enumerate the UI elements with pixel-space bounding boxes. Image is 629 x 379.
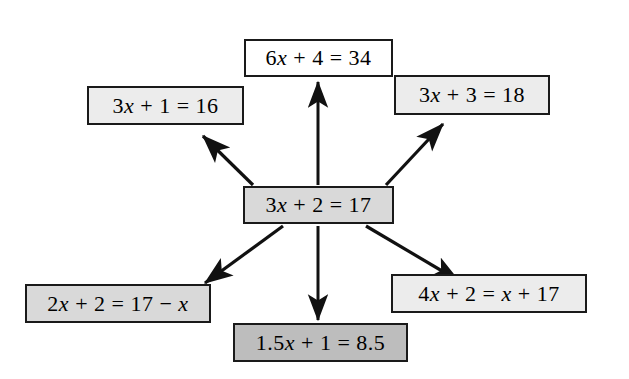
equation-node-top[interactable]: 6x + 4 = 34 <box>244 39 393 77</box>
arrow-to-upper-left <box>203 136 253 185</box>
equation-node-upper-right[interactable]: 3x + 3 = 18 <box>394 75 550 115</box>
equation-text: 2x + 2 = 17 − x <box>43 293 192 315</box>
equation-concept-map: 6x + 4 = 34 3x + 1 = 16 3x + 3 = 18 3x +… <box>0 0 629 379</box>
equation-text: 3x + 2 = 17 <box>261 194 375 216</box>
equation-text: 4x + 2 = x + 17 <box>414 283 563 305</box>
equation-text: 3x + 3 = 18 <box>415 84 529 106</box>
equation-text: 3x + 1 = 16 <box>108 95 222 117</box>
equation-node-upper-left[interactable]: 3x + 1 = 16 <box>87 86 244 125</box>
arrow-to-lower-right <box>366 226 459 281</box>
equation-text: 6x + 4 = 34 <box>261 47 375 69</box>
equation-node-bottom[interactable]: 1.5x + 1 = 8.5 <box>233 323 408 362</box>
equation-node-lower-left[interactable]: 2x + 2 = 17 − x <box>25 284 211 323</box>
equation-text: 1.5x + 1 = 8.5 <box>252 332 390 354</box>
arrow-to-lower-left <box>205 226 283 283</box>
equation-node-lower-right[interactable]: 4x + 2 = x + 17 <box>391 274 587 313</box>
equation-node-center[interactable]: 3x + 2 = 17 <box>243 186 394 224</box>
arrow-to-upper-right <box>386 124 443 185</box>
